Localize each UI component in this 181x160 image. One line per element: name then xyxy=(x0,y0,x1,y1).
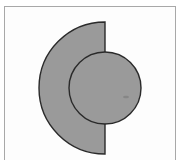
smudge-mark xyxy=(123,96,129,98)
circle-shape xyxy=(69,52,141,124)
diagram-canvas xyxy=(0,0,181,160)
